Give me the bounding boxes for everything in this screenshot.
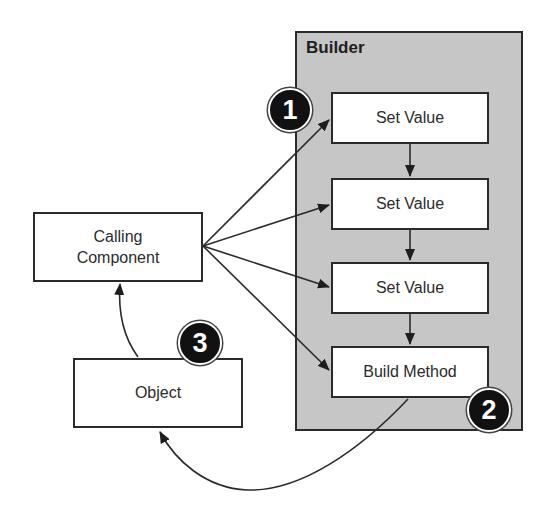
step-badge-2: 2	[467, 388, 511, 432]
step-badge-3: 3	[178, 321, 222, 365]
connector-layer	[0, 0, 555, 513]
edge-calling-to-set2	[203, 205, 329, 246]
edge-object-to-calling	[120, 284, 138, 357]
edge-calling-to-set1	[203, 120, 329, 246]
edge-calling-to-set3	[203, 246, 329, 287]
edge-build-to-object	[160, 399, 408, 490]
step-badge-1: 1	[268, 88, 312, 132]
edge-calling-to-build	[203, 246, 329, 370]
